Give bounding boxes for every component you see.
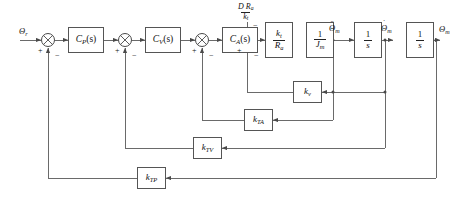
summing-junction-4-plus-sign: + [237,47,242,55]
velocity-feedback-gain-block[interactable]: kTV [193,137,222,159]
summing-junction-2-minus-sign: − [132,52,137,60]
block-diagram-canvas: CP(s) CV(s) CA(s) kt Ra 1 Jm 1 s 1 s kv [0,0,471,203]
summing-junction-4-top-minus-sign: − [253,22,258,30]
acceleration-feedback-gain-block[interactable]: kTA [244,109,273,131]
output-signal-label: Θm [439,25,450,35]
position-feedback-gain-block[interactable]: kTP [137,167,166,189]
summing-junction-2-plus-sign: + [115,47,120,55]
summing-junction-4-minus-sign: − [254,52,259,60]
summing-junction-3-plus-sign: + [192,47,197,55]
disturbance-input-label: D Ra kt [236,3,256,23]
summing-junction-3-minus-sign: − [209,52,214,60]
summing-junction-1-minus-sign: − [55,52,60,60]
output-tap-node [435,39,438,42]
velocity-branch-node [384,91,387,94]
kv-branch-node [332,91,335,94]
summing-junction-1-plus-sign: + [38,47,43,55]
position-controller-block[interactable]: CP(s) [68,27,104,53]
back-emf-gain-block[interactable]: kv [293,81,322,103]
motor-torque-constant-block[interactable]: kt Ra [265,22,293,58]
velocity-signal-label: ˙Θm [381,24,392,34]
velocity-controller-block[interactable]: CV(s) [145,27,181,53]
acceleration-signal-label: ¨Θm [329,24,340,34]
first-integrator-block[interactable]: 1 s [354,22,382,58]
velocity-tap-node [384,39,387,42]
second-integrator-block[interactable]: 1 s [406,22,434,58]
reference-input-label: Θr [19,27,28,37]
